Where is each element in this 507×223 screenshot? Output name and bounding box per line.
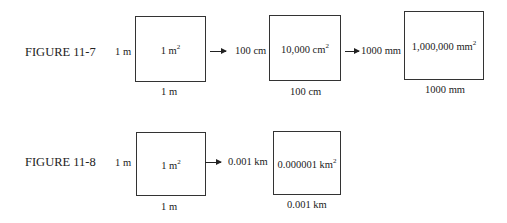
- fig8-box1-area: 1 m2: [161, 158, 181, 171]
- fig7-box3-side-label: 1000 mm: [361, 45, 401, 56]
- fig7-box3: 1,000,000 mm2: [404, 11, 484, 80]
- fig7-box1-bottom-label: 1 m: [161, 86, 177, 97]
- fig7-box3-area: 1,000,000 mm2: [412, 39, 476, 52]
- fig7-box1-area: 1 m2: [161, 43, 181, 56]
- fig8-box2-bottom-label: 0.001 km: [287, 199, 327, 210]
- arrow-icon: [205, 162, 221, 163]
- fig7-box3-bottom-label: 1000 mm: [425, 84, 465, 95]
- fig7-box1: 1 m2: [135, 16, 206, 82]
- fig8-box1-bottom-label: 1 m: [161, 201, 177, 212]
- fig7-box2: 10,000 cm2: [269, 15, 341, 81]
- fig8-box1-side-label: 1 m: [115, 157, 131, 168]
- arrow-icon: [210, 51, 226, 52]
- fig8-box2: 0.000001 km2: [273, 131, 341, 195]
- figure-11-7-label: FIGURE 11-7: [25, 45, 96, 60]
- fig7-box1-side-label: 1 m: [115, 46, 131, 57]
- fig8-box1: 1 m2: [136, 132, 206, 196]
- fig7-box2-bottom-label: 100 cm: [290, 86, 321, 97]
- fig8-box2-area: 0.000001 km2: [278, 157, 337, 170]
- arrow-icon: [345, 51, 359, 52]
- fig7-box2-side-label: 100 cm: [235, 45, 266, 56]
- figure-11-8-label: FIGURE 11-8: [25, 155, 96, 170]
- fig7-box2-area: 10,000 cm2: [281, 42, 329, 55]
- fig8-box2-side-label: 0.001 km: [228, 156, 268, 167]
